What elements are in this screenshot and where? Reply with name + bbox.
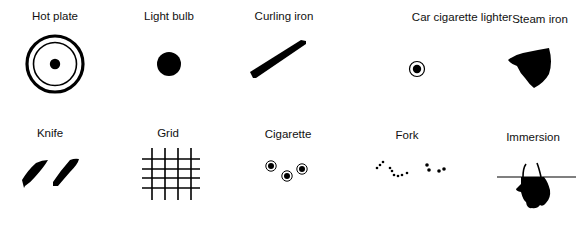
immersion-icon <box>497 163 576 208</box>
fork-icon <box>376 161 446 178</box>
hot-plate-icon <box>27 36 83 92</box>
car-cigarette-lighter-icon <box>410 62 425 77</box>
steam-iron-icon <box>508 48 551 88</box>
grid-icon <box>142 148 200 200</box>
cigarette-icon <box>266 161 307 181</box>
light-bulb-icon <box>157 52 181 76</box>
knife-icon <box>22 159 79 188</box>
curling-iron-icon <box>250 40 306 78</box>
